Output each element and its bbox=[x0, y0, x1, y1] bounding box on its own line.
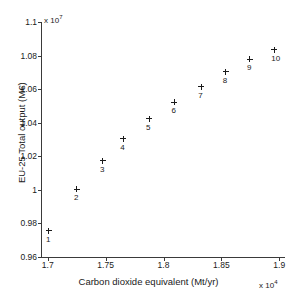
data-point-label: 4 bbox=[120, 144, 124, 152]
x-axis-title: Carbon dioxide equivalent (Mt/yr) bbox=[41, 277, 256, 287]
y-axis-tick-mark bbox=[38, 123, 42, 124]
data-point-label: 1 bbox=[46, 236, 50, 244]
plus-marker-icon bbox=[146, 116, 152, 122]
data-point-label: 9 bbox=[247, 64, 251, 72]
y-axis-tick-mark bbox=[38, 190, 42, 191]
y-axis-tick-label: 1.1 bbox=[25, 18, 37, 27]
y-axis-tick-mark bbox=[38, 223, 42, 224]
data-point-label: 2 bbox=[74, 194, 78, 202]
y-axis-tick-mark bbox=[38, 257, 42, 258]
plus-marker-icon bbox=[198, 84, 204, 90]
x-axis-exponent: x 104 bbox=[259, 279, 277, 290]
data-point-label: 3 bbox=[100, 166, 104, 174]
plus-marker-icon bbox=[247, 56, 253, 62]
y-axis-tick-label: 1 bbox=[32, 186, 37, 195]
scatter-chart-figure: x 107 x 104 0.960.9811.021.041.061.081.1… bbox=[0, 0, 293, 297]
y-axis-tick-mark bbox=[38, 156, 42, 157]
x-axis-exponent-prefix: x 10 bbox=[259, 281, 274, 290]
plus-marker-icon bbox=[100, 158, 106, 164]
x-axis-tick-label: 1.85 bbox=[213, 261, 230, 270]
x-axis-tick-label: 1.8 bbox=[158, 261, 170, 270]
data-point-label: 10 bbox=[271, 55, 280, 63]
y-axis-exponent-power: 7 bbox=[59, 14, 62, 20]
plus-marker-icon bbox=[171, 99, 177, 105]
x-axis-tick-label: 1.75 bbox=[97, 261, 114, 270]
x-axis-tick-label: 1.9 bbox=[273, 261, 285, 270]
plus-marker-icon bbox=[46, 228, 52, 234]
plus-marker-icon bbox=[271, 47, 277, 53]
plus-marker-icon bbox=[120, 136, 126, 142]
y-axis-tick-label: 0.98 bbox=[20, 219, 37, 228]
data-point-label: 7 bbox=[198, 92, 202, 100]
y-axis-tick-mark bbox=[38, 22, 42, 23]
x-axis-exponent-power: 4 bbox=[274, 279, 277, 285]
y-axis-title: EU-25 Total output (M€) bbox=[17, 53, 27, 213]
data-point-label: 6 bbox=[171, 107, 175, 115]
data-point-label: 5 bbox=[146, 124, 150, 132]
y-axis-tick-label: 0.96 bbox=[20, 253, 37, 262]
y-axis-tick-mark bbox=[38, 89, 42, 90]
plus-marker-icon bbox=[223, 69, 229, 75]
plus-marker-icon bbox=[74, 186, 80, 192]
data-point-label: 8 bbox=[223, 77, 227, 85]
plot-area: 0.960.9811.021.041.061.081.11.71.751.81.… bbox=[41, 22, 285, 258]
x-axis-tick-label: 1.7 bbox=[42, 261, 54, 270]
y-axis-tick-mark bbox=[38, 56, 42, 57]
